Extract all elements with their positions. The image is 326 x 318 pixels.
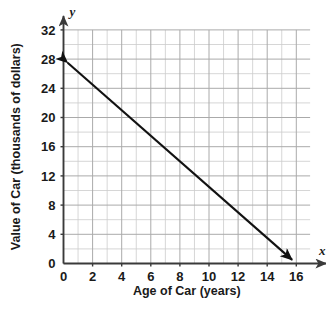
- x-tick-label: 10: [202, 269, 216, 284]
- x-tick-label: 14: [260, 269, 275, 284]
- x-tick-label: 16: [289, 269, 303, 284]
- y-tick-label: 32: [41, 23, 55, 38]
- x-tick-label: 0: [60, 269, 67, 284]
- y-axis-variable-label: y: [68, 4, 76, 19]
- y-tick-label: 16: [41, 139, 55, 154]
- chart-container: 0246810121416 048121620242832 x y Age of…: [0, 0, 326, 318]
- y-tick-label: 4: [48, 227, 56, 242]
- x-tick-label: 8: [176, 269, 183, 284]
- y-tick-label: 28: [41, 52, 55, 67]
- y-tick-label: 8: [48, 198, 55, 213]
- y-tick-label: 0: [48, 256, 55, 271]
- y-tick-label: 12: [41, 169, 55, 184]
- y-axis-title: Value of Car (thousands of dollars): [9, 43, 23, 250]
- x-axis-title: Age of Car (years): [133, 284, 241, 298]
- line-chart: 0246810121416 048121620242832 x y Age of…: [0, 0, 326, 318]
- x-tick-label: 6: [147, 269, 154, 284]
- x-tick-label: 4: [118, 269, 126, 284]
- y-tick-label: 24: [41, 81, 56, 96]
- x-tick-label: 12: [231, 269, 245, 284]
- x-axis-variable-label: x: [318, 243, 326, 258]
- y-tick-label: 20: [41, 110, 55, 125]
- x-tick-label: 2: [89, 269, 96, 284]
